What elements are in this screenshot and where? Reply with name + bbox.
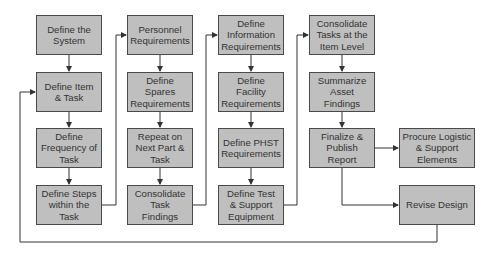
box-define-frequency: Define Frequency of Task (36, 128, 102, 168)
box-phst-requirements: Define PHST Requirements (218, 128, 284, 168)
box-repeat-next-part: Repeat on Next Part & Task (127, 128, 193, 168)
box-revise-design: Revise Design (399, 185, 475, 225)
box-consolidate-item-level: Consolidate Tasks at the Item Level (309, 15, 375, 55)
box-define-system: Define the System (36, 15, 102, 55)
box-facility-requirements: Define Facility Requirements (218, 72, 284, 112)
box-finalize-publish-report: Finalize & Publish Report (309, 128, 375, 168)
flowchart-canvas: Define the System Define Item & Task Def… (0, 0, 488, 255)
box-define-item-task: Define Item & Task (36, 72, 102, 112)
box-test-support-equipment: Define Test & Support Equipment (218, 185, 284, 225)
box-summarize-asset-findings: Summarize Asset Findings (309, 72, 375, 112)
box-personnel-requirements: Personnel Requirements (127, 15, 193, 55)
box-consolidate-task-findings: Consolidate Task Findings (127, 185, 193, 225)
box-define-steps: Define Steps within the Task (36, 185, 102, 225)
box-information-requirements: Define Information Requirements (218, 15, 284, 55)
box-spares-requirements: Define Spares Requirements (127, 72, 193, 112)
box-procure-logistic: Procure Logistic & Support Elements (399, 128, 475, 168)
